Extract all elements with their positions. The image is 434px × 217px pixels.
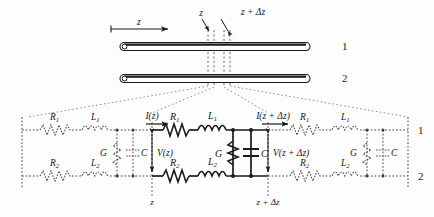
label-R1-right: R1 <box>299 112 309 123</box>
label-L1-left: L1 <box>90 112 100 123</box>
resistor-R2-right <box>290 171 322 181</box>
node-z-dz-label: z + Δz <box>256 197 280 207</box>
marker-arrows <box>202 19 228 31</box>
inductor-L1-right <box>332 126 358 130</box>
inductor-L1-center <box>198 126 226 131</box>
resistor-R1-center <box>163 124 189 136</box>
current-in-label: I(z) <box>144 111 158 122</box>
node-z-label: z <box>149 197 154 207</box>
conductance-G-left <box>113 143 121 165</box>
right-cell-nodes <box>366 129 385 178</box>
label-R2-center: R2 <box>169 157 180 170</box>
resistor-R2-center <box>163 170 189 182</box>
left-cell-nodes <box>116 129 135 178</box>
label-C-right: C <box>391 148 398 158</box>
label-L2-left: L2 <box>90 158 100 169</box>
circuit-rail-2-label: 2 <box>418 170 424 182</box>
label-R2-right: R2 <box>299 158 310 169</box>
label-L1-right: L1 <box>340 112 350 123</box>
conductor-1 <box>120 43 310 51</box>
conductor-1-label: 1 <box>342 40 348 52</box>
conductance-G-right <box>363 143 371 165</box>
label-R1-left: R1 <box>49 112 59 123</box>
inductor-L2-right <box>332 172 358 176</box>
voltage-in-label: V(z) <box>157 148 173 159</box>
label-C-center: C <box>261 148 268 159</box>
circuit-rail-1-label: 1 <box>418 124 424 136</box>
inductor-L2-left <box>82 172 108 176</box>
marker-z-label: z <box>198 8 203 18</box>
z-axis-label: z <box>136 16 141 27</box>
marker-z-dz-label: z + Δz <box>240 7 265 17</box>
label-L1-center: L1 <box>207 110 217 123</box>
label-L2-right: L2 <box>340 158 350 169</box>
center-cell-nodes <box>231 128 253 178</box>
inductor-L1-left <box>82 126 108 130</box>
label-G-left: G <box>100 148 107 158</box>
label-G-right: G <box>350 148 357 158</box>
transmission-line-figure: z z z + Δz 1 2 <box>0 0 434 217</box>
label-R2-left: R2 <box>49 158 60 169</box>
resistor-R1-left <box>40 125 72 135</box>
resistor-R1-right <box>290 125 322 135</box>
left-cell-rails <box>22 117 152 189</box>
current-out-label: I(z + Δz) <box>255 111 290 122</box>
inductor-L2-center <box>198 172 226 177</box>
conductor-2-label: 2 <box>342 72 348 84</box>
label-R1-center: R1 <box>169 111 180 124</box>
conductor-2 <box>120 75 310 83</box>
expansion-lines <box>28 86 408 117</box>
resistor-R2-left <box>40 171 72 181</box>
label-C-left: C <box>141 148 148 158</box>
label-G-center: G <box>215 148 222 159</box>
